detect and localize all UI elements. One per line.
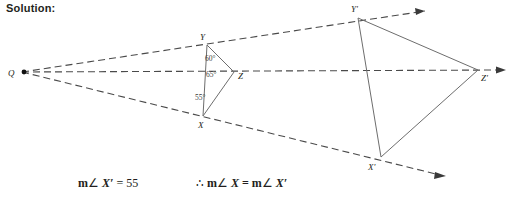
center-point-q: Q	[8, 68, 26, 78]
angle-subject-2: X′	[276, 176, 287, 190]
vertex-label-z: Z	[238, 71, 244, 81]
angle-label-y: 60°	[205, 54, 216, 63]
measure-operator-1: m	[207, 176, 217, 190]
ray-y-arrowhead	[415, 8, 425, 15]
triangle-x-prime-y-prime-z-prime: Y′ Z′ X′	[351, 4, 489, 172]
ray-q-through-x	[22, 72, 440, 175]
statement-congruence: ∴ m∠ X = m∠ X′	[196, 176, 287, 191]
vertex-label-y: Y	[200, 32, 206, 42]
vertex-label-q: Q	[8, 68, 15, 78]
angle-symbol-1: ∠	[217, 176, 228, 190]
equals-sign-left: =	[116, 176, 123, 190]
angle-subject-1: X	[231, 176, 239, 190]
angle-symbol-2: ∠	[262, 176, 273, 190]
geometry-diagram: Q Y Z X 60° 65° 55° Y′ Z′ X′	[0, 0, 513, 199]
angle-subject-left: X′	[102, 176, 113, 190]
measure-operator-2: m	[252, 176, 262, 190]
equals-sign-right: =	[242, 176, 249, 190]
angle-label-x: 55°	[195, 93, 206, 102]
angle-value-left: 55	[126, 176, 138, 190]
solution-figure-page: Solution: Q Y Z X 60° 65° 55°	[0, 0, 513, 199]
dilation-rays	[22, 8, 506, 179]
vertex-label-z-prime: Z′	[481, 73, 489, 83]
vertex-label-x-prime: X′	[367, 162, 376, 172]
ray-q-through-y	[22, 11, 425, 72]
statement-angle-x-prime: m∠ X′ = 55	[78, 176, 138, 191]
vertex-label-y-prime: Y′	[351, 4, 359, 14]
triangle-xyz: Y Z X 60° 65° 55°	[195, 32, 244, 130]
angle-label-z: 65°	[206, 70, 217, 79]
ray-z-arrowhead	[496, 67, 506, 74]
vertex-label-x: X	[197, 120, 204, 130]
angle-symbol-left: ∠	[88, 176, 99, 190]
statement-row: m∠ X′ = 55 ∴ m∠ X = m∠ X′	[0, 176, 513, 196]
therefore-symbol: ∴	[196, 176, 204, 190]
measure-operator-left: m	[78, 176, 88, 190]
ray-q-through-z	[22, 70, 500, 72]
